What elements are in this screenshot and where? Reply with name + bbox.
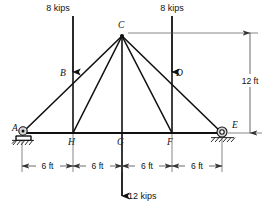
dimension-label-G-F: 6 ft bbox=[141, 161, 153, 171]
member-C-H-diagonal bbox=[73, 36, 122, 133]
joint-label-E: E bbox=[231, 120, 238, 130]
dimension-label-A-H: 6 ft bbox=[42, 161, 54, 171]
joint-label-D: D bbox=[175, 68, 183, 78]
joint-label-A: A bbox=[11, 123, 18, 133]
dimension-label-H-G: 6 ft bbox=[92, 161, 104, 171]
joint-label-C: C bbox=[118, 20, 125, 30]
truss-members bbox=[22, 36, 222, 133]
joint-label-G: G bbox=[117, 137, 124, 147]
horizontal-dimensions: 6 ft 6 ft 6 ft 6 ft bbox=[22, 134, 222, 172]
member-A-C bbox=[22, 36, 122, 133]
member-C-F-diagonal bbox=[122, 36, 172, 133]
load-label-right: 8 kips bbox=[160, 3, 184, 13]
vertical-dimension: 12 ft bbox=[128, 33, 262, 133]
joint-label-H: H bbox=[67, 137, 76, 147]
roller-support-hatching bbox=[211, 138, 235, 142]
truss-diagram-canvas: A H G F E B C D 8 kips 8 kips 12 kips bbox=[0, 0, 267, 208]
truss-diagram-figure: A H G F E B C D 8 kips 8 kips 12 kips bbox=[0, 0, 267, 208]
dimension-label-F-E: 6 ft bbox=[191, 161, 203, 171]
dimension-label-height: 12 ft bbox=[242, 76, 259, 86]
joint-label-B: B bbox=[60, 68, 66, 78]
load-label-left: 8 kips bbox=[46, 3, 70, 13]
joint-dot-C bbox=[120, 34, 124, 38]
load-label-bottom: 12 kips bbox=[128, 191, 157, 201]
